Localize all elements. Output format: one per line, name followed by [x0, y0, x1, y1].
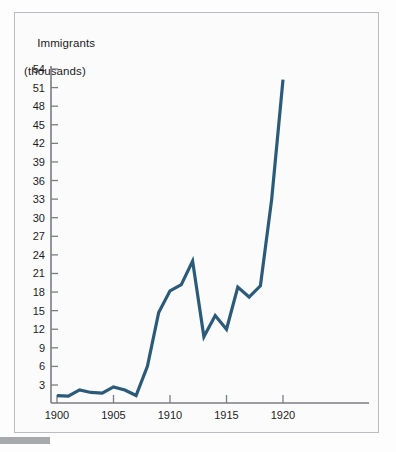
y-tick-label: 39 [33, 156, 45, 168]
figure-canvas: Immigrants (thousands) 36912151821242730… [0, 0, 396, 452]
x-tick-label: 1915 [214, 409, 238, 421]
data-series-group [57, 80, 283, 397]
x-tick-label: 1900 [45, 409, 69, 421]
y-tick-label: 36 [33, 175, 45, 187]
y-tick-label: 18 [33, 286, 45, 298]
y-tick-label: 24 [33, 249, 45, 261]
y-tick-label: 21 [33, 267, 45, 279]
line-chart-plot: 369121518212427303336394245485154 190019… [0, 0, 396, 452]
x-tick-label: 1910 [158, 409, 182, 421]
y-tick-label: 51 [33, 82, 45, 94]
y-tick-label: 9 [39, 342, 45, 354]
x-tick-label: 1920 [271, 409, 295, 421]
y-tick-label: 27 [33, 230, 45, 242]
y-tick-label: 33 [33, 193, 45, 205]
y-tick-label: 42 [33, 137, 45, 149]
y-tick-label: 6 [39, 360, 45, 372]
y-tick-label: 45 [33, 119, 45, 131]
footer-gray-bar [0, 437, 50, 444]
y-tick-label: 54 [33, 63, 45, 75]
y-tick-label: 12 [33, 323, 45, 335]
x-axis-ticks: 19001905191019151920 [45, 395, 295, 421]
x-tick-label: 1905 [101, 409, 125, 421]
y-axis-ticks: 369121518212427303336394245485154 [33, 63, 58, 391]
chart-axes [51, 66, 369, 403]
y-tick-label: 3 [39, 379, 45, 391]
y-tick-label: 30 [33, 212, 45, 224]
y-tick-label: 48 [33, 100, 45, 112]
y-tick-label: 15 [33, 305, 45, 317]
data-line-immigrants [57, 80, 283, 397]
